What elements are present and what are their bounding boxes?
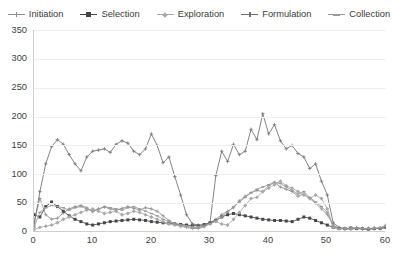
data-point xyxy=(144,211,147,212)
data-point xyxy=(91,211,94,212)
gridline-250 xyxy=(34,88,386,89)
legend-item-selection[interactable]: Selection xyxy=(80,10,139,19)
data-point xyxy=(97,222,100,225)
legend-label-collection: Collection xyxy=(349,10,390,19)
data-point xyxy=(102,212,106,216)
data-point xyxy=(255,138,259,142)
data-point xyxy=(97,148,101,152)
data-point xyxy=(55,221,59,225)
data-point xyxy=(138,218,141,221)
x-tick-60: 60 xyxy=(370,236,398,245)
data-point xyxy=(79,210,83,214)
data-point xyxy=(314,193,318,197)
data-point xyxy=(261,218,264,221)
data-point xyxy=(103,221,106,224)
data-point xyxy=(302,155,306,159)
y-tick-300: 300 xyxy=(1,54,27,63)
gridline-200 xyxy=(34,117,386,118)
data-point xyxy=(179,193,183,197)
data-point xyxy=(326,224,329,227)
legend-label-selection: Selection xyxy=(101,10,139,19)
data-point xyxy=(150,220,153,223)
data-point xyxy=(56,206,59,207)
data-point xyxy=(50,205,53,206)
legend-label-formulation: Formulation xyxy=(262,10,311,19)
data-point xyxy=(34,227,36,228)
data-point xyxy=(343,228,346,229)
data-point xyxy=(261,112,265,116)
data-point xyxy=(149,215,153,219)
data-point xyxy=(115,208,118,209)
data-point xyxy=(243,149,247,153)
data-point xyxy=(249,192,252,193)
data-point xyxy=(132,209,136,213)
y-tick-50: 50 xyxy=(1,198,27,207)
data-point xyxy=(314,219,317,222)
data-point xyxy=(115,220,118,223)
data-point xyxy=(226,160,230,164)
data-point xyxy=(38,225,42,229)
data-point xyxy=(308,217,311,220)
data-point xyxy=(132,206,135,207)
data-point xyxy=(126,212,130,216)
data-point xyxy=(38,212,41,213)
legend-label-exploration: Exploration xyxy=(178,10,225,19)
data-point xyxy=(220,222,224,226)
data-point xyxy=(85,208,88,209)
data-point xyxy=(197,227,200,228)
data-point xyxy=(337,228,340,229)
data-point xyxy=(355,227,358,228)
legend-marker-collection xyxy=(328,10,345,19)
data-point xyxy=(384,226,386,227)
data-point xyxy=(244,197,247,198)
x-tick-0: 0 xyxy=(18,236,48,245)
data-point xyxy=(191,227,194,228)
data-point xyxy=(109,207,112,208)
data-point xyxy=(103,147,107,151)
gridline-150 xyxy=(34,145,386,146)
gridline-300 xyxy=(34,59,386,60)
data-point xyxy=(79,220,82,223)
data-point xyxy=(291,190,294,191)
data-point xyxy=(325,207,329,211)
data-point xyxy=(85,222,88,225)
legend-item-exploration[interactable]: Exploration xyxy=(157,10,225,19)
data-point xyxy=(50,223,54,227)
data-point xyxy=(367,228,370,229)
data-point xyxy=(302,191,305,192)
data-point xyxy=(326,193,330,197)
y-tick-100: 100 xyxy=(1,170,27,179)
gridline-100 xyxy=(34,174,386,175)
data-point xyxy=(320,179,324,183)
data-point xyxy=(62,210,65,213)
data-point xyxy=(121,219,124,222)
legend-item-formulation[interactable]: Formulation xyxy=(241,10,311,19)
data-point xyxy=(161,219,164,220)
y-tick-0: 0 xyxy=(1,227,27,236)
legend-item-initiation[interactable]: Initiation xyxy=(8,10,64,19)
data-point xyxy=(44,162,48,166)
data-point xyxy=(144,219,147,222)
data-point xyxy=(185,226,188,227)
data-point xyxy=(250,215,253,218)
data-point xyxy=(138,208,141,209)
x-tick-20: 20 xyxy=(136,236,166,245)
data-point xyxy=(150,132,154,136)
data-point xyxy=(97,208,100,209)
legend-marker-exploration xyxy=(157,10,174,19)
data-point xyxy=(226,212,229,213)
legend-marker-selection xyxy=(80,10,97,19)
data-point xyxy=(267,184,270,185)
legend-item-collection[interactable]: Collection xyxy=(328,10,390,19)
data-point xyxy=(208,223,211,224)
data-point xyxy=(167,221,170,222)
data-point xyxy=(120,209,123,210)
data-point xyxy=(173,175,177,179)
data-point xyxy=(173,223,176,224)
data-point xyxy=(155,217,159,221)
data-point xyxy=(150,213,153,214)
data-point xyxy=(73,213,77,217)
data-point xyxy=(285,220,288,223)
x-tick-50: 50 xyxy=(311,236,341,245)
data-point xyxy=(296,193,299,194)
